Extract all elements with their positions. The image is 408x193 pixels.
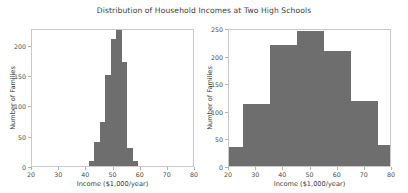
x-tick-label: 40 xyxy=(278,171,286,178)
x-tick xyxy=(58,167,59,170)
x-tick-label: 80 xyxy=(190,171,198,178)
x-tick xyxy=(282,167,283,170)
histogram-bar xyxy=(133,161,138,166)
histogram-bar xyxy=(324,51,351,166)
x-tick xyxy=(364,167,365,170)
histogram-bar xyxy=(243,104,270,166)
x-tick xyxy=(140,167,141,170)
x-axis-label-right: Income ($1,000/year) xyxy=(274,180,346,188)
x-tick-label: 60 xyxy=(136,171,144,178)
histogram-bar xyxy=(351,101,378,166)
y-tick xyxy=(28,137,31,138)
x-tick-label: 20 xyxy=(27,171,35,178)
x-tick-label: 60 xyxy=(333,171,341,178)
y-tick xyxy=(28,106,31,107)
x-tick-label: 50 xyxy=(305,171,313,178)
x-tick xyxy=(255,167,256,170)
plot-area-left xyxy=(31,29,194,167)
bars-right xyxy=(229,30,390,166)
bars-left xyxy=(32,30,193,166)
x-tick xyxy=(310,167,311,170)
y-tick-label: 0 xyxy=(0,164,26,171)
y-tick xyxy=(225,112,228,113)
y-tick xyxy=(28,76,31,77)
y-tick-label: 250 xyxy=(193,26,223,33)
x-tick-label: 70 xyxy=(360,171,368,178)
figure-title: Distribution of Household Incomes at Two… xyxy=(0,6,408,15)
x-tick-label: 40 xyxy=(81,171,89,178)
x-tick-label: 70 xyxy=(163,171,171,178)
histogram-bar xyxy=(297,31,324,166)
y-tick-label: 0 xyxy=(193,164,223,171)
x-tick-label: 30 xyxy=(54,171,62,178)
histogram-bar xyxy=(378,145,391,166)
y-axis-label-left: Number of Families xyxy=(9,38,17,158)
x-tick-label: 30 xyxy=(251,171,259,178)
x-tick xyxy=(391,167,392,170)
x-tick xyxy=(85,167,86,170)
histogram-bar xyxy=(229,147,243,166)
x-tick xyxy=(167,167,168,170)
y-tick xyxy=(225,167,228,168)
chart-left: 20304050607080050100150200 Income ($1,00… xyxy=(31,29,194,167)
x-tick-label: 50 xyxy=(108,171,116,178)
y-axis-label-right: Number of Families xyxy=(206,38,214,158)
y-tick xyxy=(225,84,228,85)
x-tick xyxy=(228,167,229,170)
x-tick xyxy=(113,167,114,170)
figure: Distribution of Household Incomes at Two… xyxy=(0,0,408,193)
y-tick xyxy=(225,29,228,30)
x-tick-label: 20 xyxy=(224,171,232,178)
y-tick xyxy=(28,46,31,47)
y-tick xyxy=(225,57,228,58)
histogram-bar xyxy=(270,45,297,166)
x-tick-label: 80 xyxy=(387,171,395,178)
plot-area-right xyxy=(228,29,391,167)
x-tick xyxy=(31,167,32,170)
y-tick xyxy=(225,139,228,140)
x-axis-label-left: Income ($1,000/year) xyxy=(77,180,149,188)
chart-right: 20304050607080050100150200250 Income ($1… xyxy=(228,29,391,167)
y-tick xyxy=(28,167,31,168)
x-tick xyxy=(337,167,338,170)
